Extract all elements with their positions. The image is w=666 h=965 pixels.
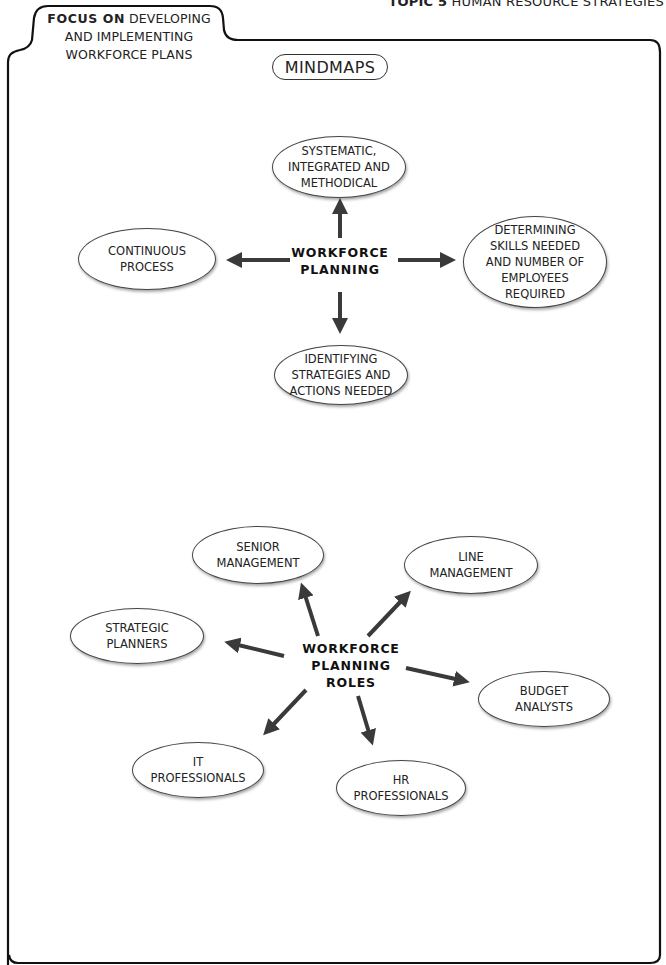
section-label-mindmaps: MINDMAPS	[272, 54, 388, 80]
node-determining-skills: DETERMINING SKILLS NEEDED AND NUMBER OF …	[463, 216, 607, 308]
focus-tab: FOCUS ON DEVELOPING AND IMPLEMENTING WOR…	[36, 10, 222, 64]
node-identifying-strategies: IDENTIFYING STRATEGIES AND ACTIONS NEEDE…	[274, 345, 408, 405]
node-systematic: SYSTEMATIC, INTEGRATED AND METHODICAL	[272, 136, 406, 198]
node-senior-management: SENIOR MANAGEMENT	[192, 526, 324, 584]
node-strategic-planners: STRATEGIC PLANNERS	[70, 608, 204, 664]
focus-label: FOCUS ON	[47, 11, 125, 26]
node-it-professionals: IT PROFESSIONALS	[132, 742, 264, 798]
node-continuous-process: CONTINUOUS PROCESS	[78, 228, 216, 290]
center-workforce-planning-roles: WORKFORCE PLANNING ROLES	[290, 640, 412, 691]
node-budget-analysts: BUDGET ANALYSTS	[478, 671, 610, 727]
center-workforce-planning: WORKFORCE PLANNING	[278, 244, 402, 278]
node-line-management: LINE MANAGEMENT	[404, 536, 538, 594]
node-hr-professionals: HR PROFESSIONALS	[336, 760, 466, 816]
